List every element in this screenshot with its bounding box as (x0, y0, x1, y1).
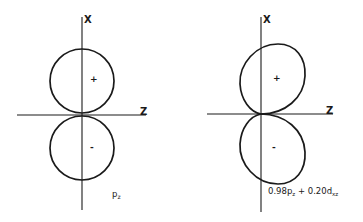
orbital-diagram: X Z + - pz X Z + - 0.98pz + 0.20dxz (0, 0, 363, 222)
pz-caption: pz (112, 189, 121, 200)
hybrid-orbital-figure: X Z + - 0.98pz + 0.20dxz (207, 14, 338, 212)
hybrid-caption: 0.98pz + 0.20dxz (268, 186, 338, 197)
z-axis-label: Z (326, 105, 333, 116)
z-axis-label: Z (140, 106, 147, 117)
positive-sign: + (273, 73, 281, 83)
x-axis-label: X (263, 14, 271, 25)
x-axis-label: X (84, 14, 92, 25)
pz-orbital-figure: X Z + - pz (17, 14, 147, 210)
negative-sign: - (90, 142, 94, 152)
positive-sign: + (90, 74, 98, 84)
negative-sign: - (272, 142, 276, 152)
